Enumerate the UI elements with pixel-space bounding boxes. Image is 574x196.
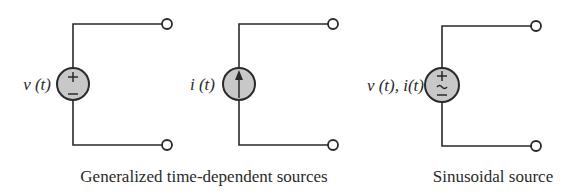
- terminal-bottom: [328, 140, 338, 150]
- terminal-top: [531, 21, 541, 31]
- wire-bottom: [239, 100, 328, 145]
- sinusoidal-source-circuit: v (t), i(t): [367, 21, 541, 151]
- wire-top: [239, 24, 328, 68]
- wire-top: [73, 24, 162, 68]
- wire-top: [442, 26, 531, 68]
- terminal-bottom: [162, 140, 172, 150]
- terminal-top: [162, 19, 172, 29]
- voltage-source-circuit: v (t): [23, 19, 172, 150]
- caption-sinusoidal: Sinusoidal source: [433, 167, 553, 186]
- terminal-bottom: [531, 141, 541, 151]
- current-source-label: i (t): [190, 75, 215, 94]
- voltage-source-label: v (t): [23, 75, 51, 94]
- current-source-circuit: i (t): [190, 19, 338, 150]
- wire-bottom: [73, 100, 162, 145]
- caption-generalized: Generalized time-dependent sources: [80, 167, 327, 186]
- terminal-top: [328, 19, 338, 29]
- wire-bottom: [442, 102, 531, 146]
- circuit-sources-diagram: v (t) i (t) v (t), i(t) Generalized time…: [0, 0, 574, 196]
- sinusoidal-source-label: v (t), i(t): [367, 76, 424, 95]
